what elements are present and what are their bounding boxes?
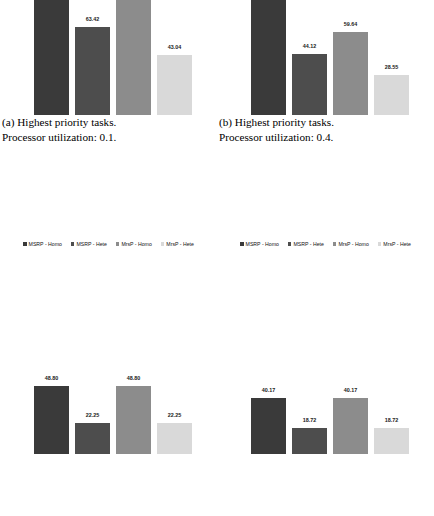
bar-value-label: 22.25 [168, 411, 182, 420]
legend-swatch-icon [161, 242, 165, 246]
legend-item: MSRP - Homo [23, 241, 62, 248]
legend-label: MSRP - Homo [29, 241, 62, 248]
bar-value-label: 48.80 [45, 374, 59, 383]
bar: 40.17 [333, 386, 368, 454]
bar: 22.25 [157, 411, 192, 454]
caption-b: (b) Highest priority tasks. Processor ut… [219, 115, 419, 145]
bar: 63.42 [75, 15, 110, 115]
legend-label: MrsP - Hete [383, 241, 411, 248]
legend-item: MrsP - Hete [161, 241, 194, 248]
bar-rect [251, 0, 286, 115]
bar: 18.72 [292, 416, 327, 454]
legend-swatch-icon [288, 242, 292, 246]
bar [116, 0, 151, 115]
caption-a: (a) Highest priority tasks. Processor ut… [2, 115, 202, 145]
bar [251, 0, 286, 115]
bar-rect [251, 398, 286, 454]
bar-value-label: 59.64 [344, 20, 358, 29]
bar-rect [75, 423, 110, 454]
legend-b: MSRP - HomoMSRP - HeteMrsP - HomoMrsP - … [217, 238, 434, 250]
legend-label: MrsP - Homo [338, 241, 368, 248]
bar: 40.17 [251, 386, 286, 454]
legend-swatch-icon [71, 242, 75, 246]
legend-label: MrsP - Hete [166, 241, 194, 248]
subfigure-d: 40.1718.7240.1718.72 [217, 301, 434, 454]
bar: 43.04 [157, 43, 192, 115]
bar-chart-d: 40.1718.7240.1718.72 [217, 301, 434, 454]
bar-value-label: 44.12 [303, 42, 317, 51]
bar: 28.55 [374, 63, 409, 115]
legend-item: MrsP - Homo [116, 241, 152, 248]
legend-swatch-icon [333, 242, 337, 246]
legend-label: MSRP - Hete [293, 241, 323, 248]
legend-swatch-icon [116, 242, 120, 246]
bar: 18.72 [374, 416, 409, 454]
bar-rect [157, 55, 192, 115]
caption-b-line1: (b) Highest priority tasks. [219, 115, 419, 130]
bar-value-label: 43.04 [168, 43, 182, 52]
bar-value-label: 28.55 [385, 63, 399, 72]
bar: 22.25 [75, 411, 110, 454]
bar: 44.12 [292, 42, 327, 115]
subfigure-b: 44.1259.6428.55 (b) Highest priority tas… [217, 0, 434, 145]
legend-a: MSRP - HomoMSRP - HeteMrsP - HomoMrsP - … [0, 238, 217, 250]
legend-label: MrsP - Homo [121, 241, 151, 248]
bar-rect [34, 0, 69, 115]
bar-value-label: 18.72 [385, 416, 399, 425]
figure-grid: 63.4243.04 (a) Highest priority tasks. P… [0, 0, 434, 516]
legend-swatch-icon [378, 242, 382, 246]
bar-rect [374, 75, 409, 115]
bar-rect [75, 27, 110, 115]
bar-chart-c: 48.8022.2548.8022.25 [0, 301, 217, 454]
bar-rect [333, 32, 368, 115]
bar-rect [116, 0, 151, 115]
bar: 59.64 [333, 20, 368, 115]
legend-swatch-icon [240, 242, 244, 246]
legend-item: MSRP - Hete [71, 241, 107, 248]
legend-item: MrsP - Homo [333, 241, 369, 248]
bar-chart-b: 44.1259.6428.55 [217, 0, 434, 115]
bar-rect [292, 54, 327, 115]
bar-value-label: 63.42 [86, 15, 100, 24]
caption-a-line1: (a) Highest priority tasks. [2, 115, 202, 130]
bar-value-label: 18.72 [303, 416, 317, 425]
bar: 48.80 [116, 374, 151, 454]
legend-item: MSRP - Hete [288, 241, 324, 248]
caption-a-line2: Processor utilization: 0.1. [2, 130, 202, 145]
subfigure-a: 63.4243.04 (a) Highest priority tasks. P… [0, 0, 217, 145]
bar-rect [116, 386, 151, 454]
legend-label: MSRP - Hete [76, 241, 106, 248]
bar-value-label: 22.25 [86, 411, 100, 420]
bar-rect [292, 428, 327, 454]
legend-label: MSRP - Homo [246, 241, 279, 248]
bar-value-label: 40.17 [262, 386, 276, 395]
legend-item: MSRP - Homo [240, 241, 279, 248]
bar-rect [34, 386, 69, 454]
bar-rect [374, 428, 409, 454]
subfigure-c: 48.8022.2548.8022.25 [0, 301, 217, 454]
bar-rect [333, 398, 368, 454]
bar-value-label: 48.80 [127, 374, 141, 383]
caption-b-line2: Processor utilization: 0.4. [219, 130, 419, 145]
legend-item: MrsP - Hete [378, 241, 411, 248]
bar: 48.80 [34, 374, 69, 454]
bar-chart-a: 63.4243.04 [0, 0, 217, 115]
bar-rect [157, 423, 192, 454]
bar-value-label: 40.17 [344, 386, 358, 395]
legend-swatch-icon [23, 242, 27, 246]
bar [34, 0, 69, 115]
